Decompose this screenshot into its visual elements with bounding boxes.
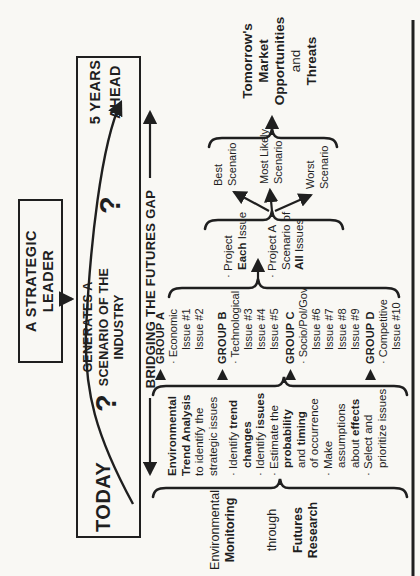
rotated-scan-page: A STRATEGIC LEADER TODAY ? GENERATES A S… [0,0,420,576]
project-item1-line1: · Project [222,212,236,278]
analysis-bullet-line: · Identify trend [227,390,241,476]
analysis-bullet-line: · Estimate the [268,390,282,476]
group-d-arrowhead-icon [365,369,376,380]
fan-arrow-most-likely [270,190,272,211]
group-a-category: · Economic [167,308,180,364]
analysis-bullet-line: changes [241,390,255,476]
group-a-block: GROUP A · Economic Issue #1 Issue #2 [154,308,206,364]
generates-line1: GENERATES A [81,264,97,390]
analysis-bullet-line: about effects [349,390,363,476]
group-b-issue: Issue #4 [255,291,268,364]
leader-box-line2: LEADER [40,201,57,361]
group-d-title: GROUP D [364,299,377,364]
group-a-issue: Issue #2 [193,308,206,364]
five-years-ahead-block: 5 YEARS AHEAD [85,56,125,128]
monitoring-line5: Research [306,484,321,576]
generates-block: GENERATES A SCENARIO OF THE INDUSTRY [81,264,128,390]
analysis-bullet-line: of occurrence [308,390,322,476]
analysis-bullet-line: · Identify issues [254,390,268,476]
project-item2-line1: · Project A [266,212,280,278]
group-d-category: · Competitive [377,299,390,364]
group-c-issue: Issue #7 [323,288,336,364]
group-c-issue: Issue #9 [349,288,362,364]
monitoring-line2: Monitoring [223,484,238,576]
analysis-list: Environmental Trend Analysis to identify… [166,390,389,476]
diagram-canvas: A STRATEGIC LEADER TODAY ? GENERATES A S… [0,0,420,576]
best-scenario-label: Best Scenario [212,143,239,186]
most-likely-line1: Most Likely [258,129,272,184]
project-all-issues-item: · Project A Scenario of All Issues [266,212,307,278]
monitoring-block: Environmental Monitoring through Futures… [208,484,321,576]
analysis-header-line: strategic issues [207,390,221,476]
group-c-title: GROUP C [284,288,297,364]
outcome-line1: Tomorrow's [240,8,256,114]
most-likely-line2: Scenario [272,129,286,184]
analysis-bullet-line: prioritize issues [376,390,390,476]
outcome-line3: Opportunities [272,8,288,114]
group-d-block: GROUP D · Competitive Issue #10 [364,299,403,364]
fan-arrow-best [234,192,269,211]
group-c-issue: Issue #6 [310,288,323,364]
question-mark-left: ? [90,394,123,412]
analysis-header-line: to identify the [193,390,207,476]
project-each-issue-item: · Project Each Issue [222,212,249,278]
analysis-header-line: Environmental [166,390,180,476]
today-label: TODAY [92,462,115,532]
worst-scenario-line2: Scenario [318,146,332,189]
outcome-line5: Threats [304,8,320,114]
group-c-block: GROUP C · Socio/Pol/Gov Issue #6 Issue #… [284,288,362,364]
group-b-category: · Technological [229,291,242,364]
group-b-issue: Issue #3 [242,291,255,364]
leader-box-line1: A STRATEGIC [23,201,40,361]
ahead-line2: AHEAD [105,56,125,128]
project-item1-line2: Each Issue [236,212,250,278]
analysis-bullet-line: assumptions [335,390,349,476]
outcome-block: Tomorrow's Market Opportunities and Thre… [240,8,320,114]
strategic-leader-box: A STRATEGIC LEADER [18,199,63,363]
most-likely-scenario-label: Most Likely Scenario [258,129,285,184]
generates-line2: SCENARIO OF THE [97,264,113,390]
analysis-bullet-line: and timing [295,390,309,476]
group-c-category: · Socio/Pol/Gov [297,288,310,364]
monitoring-line4: Futures [291,484,306,576]
outcome-line4: and [288,8,304,114]
group-d-issue: Issue #10 [390,299,403,364]
ahead-line1: 5 YEARS [85,56,105,128]
group-c-issue: Issue #8 [336,288,349,364]
best-scenario-line1: Best [212,143,226,186]
group-a-issue: Issue #1 [180,308,193,364]
group-b-title: GROUP B [216,291,229,364]
fan-arrow-worst [275,195,311,211]
group-b-issue: Issue #5 [268,291,281,364]
best-scenario-line2: Scenario [226,143,240,186]
project-item2-line3: All Issues [293,212,307,278]
analysis-header-line: Trend Analysis [180,390,194,476]
generates-line3: INDUSTRY [112,264,128,390]
analysis-bullet-line: · Make [322,390,336,476]
worst-scenario-line1: Worst [304,146,318,189]
monitoring-line3: through [265,484,280,576]
question-mark-right: ? [94,196,127,214]
group-c-arrowhead-icon [285,369,296,380]
group-b-block: GROUP B · Technological Issue #3 Issue #… [216,291,281,364]
group-b-arrowhead-icon [217,369,228,380]
outcome-line2: Market [256,8,272,114]
worst-scenario-label: Worst Scenario [304,146,331,189]
group-a-title: GROUP A [154,308,167,364]
analysis-bullet-line: probability [281,390,295,476]
project-item2-line2: Scenario of [280,212,294,278]
analysis-bullet-line: · Select and [362,390,376,476]
monitoring-line1: Environmental [208,484,223,576]
